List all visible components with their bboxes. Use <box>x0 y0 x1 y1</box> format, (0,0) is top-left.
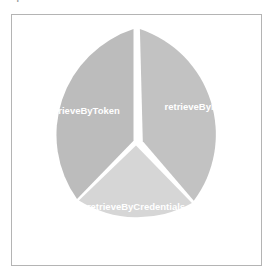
pie-slice-label-retrieveByToken: retrieveByToken <box>46 105 120 116</box>
pie-slice-label-retrieveById: retrieveById <box>165 101 220 112</box>
pie-slice-label-retrieveByCredentials: retrieveByCredentials <box>87 201 185 212</box>
pie-chart: retrieveById retrieveByCredentials retri… <box>0 0 273 275</box>
